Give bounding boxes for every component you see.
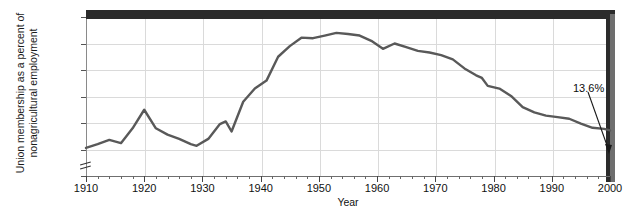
x-axis-tick-minor: [109, 176, 110, 179]
x-axis-tick-minor: [237, 176, 238, 179]
y-axis-tick-mark: [81, 123, 86, 124]
x-axis-tick-minor: [575, 176, 576, 179]
x-axis-tick-minor: [540, 176, 541, 179]
x-axis-tick-minor: [284, 176, 285, 179]
x-axis-tick-label: 1960: [365, 182, 389, 194]
x-axis-tick-major: [552, 176, 553, 182]
x-axis-tick-minor: [226, 176, 227, 179]
x-axis-tick-label: 1990: [540, 182, 564, 194]
x-axis-tick-minor: [168, 176, 169, 179]
x-axis-tick-label: 1980: [481, 182, 505, 194]
x-axis-tick-minor: [505, 176, 506, 179]
y-axis-tick-mark: [81, 97, 86, 98]
x-axis-tick-minor: [98, 176, 99, 179]
x-axis-tick-label: 1920: [132, 182, 156, 194]
x-axis-tick-minor: [517, 176, 518, 179]
x-axis-tick-minor: [156, 176, 157, 179]
x-axis-tick-minor: [121, 176, 122, 179]
y-axis-tick-mark: [81, 150, 86, 151]
x-axis-tick-major: [319, 176, 320, 182]
x-axis-tick-major: [610, 176, 611, 182]
x-axis-tick-minor: [598, 176, 599, 179]
x-axis-tick-minor: [272, 176, 273, 179]
x-axis-tick-minor: [296, 176, 297, 179]
x-axis-tick-major: [202, 176, 203, 182]
y-axis-title-line1: Union membership as a percent of: [14, 12, 26, 173]
y-axis-tick-mark: [81, 17, 86, 18]
x-axis-tick-minor: [424, 176, 425, 179]
x-axis-tick-minor: [412, 176, 413, 179]
x-axis-tick-minor: [459, 176, 460, 179]
y-axis-title: Union membership as a percent of nonagri…: [0, 0, 52, 185]
x-axis-tick-minor: [307, 176, 308, 179]
x-axis-tick-minor: [389, 176, 390, 179]
x-axis-tick-label: 1940: [248, 182, 272, 194]
chart-container: Union membership as a percent of nonagri…: [0, 0, 635, 220]
x-axis-tick-label: 1930: [190, 182, 214, 194]
y-axis-tick-mark: [81, 70, 86, 71]
x-axis-tick-minor: [447, 176, 448, 179]
x-axis-tick-minor: [354, 176, 355, 179]
x-axis-tick-minor: [365, 176, 366, 179]
annotation-arrow-icon: [560, 92, 620, 162]
x-axis-tick-minor: [214, 176, 215, 179]
x-axis-tick-major: [86, 176, 87, 182]
x-axis-tick-minor: [191, 176, 192, 179]
x-axis-tick-minor: [470, 176, 471, 179]
x-axis-tick-minor: [331, 176, 332, 179]
x-axis-tick-minor: [133, 176, 134, 179]
x-axis-tick-minor: [563, 176, 564, 179]
x-axis-tick-minor: [482, 176, 483, 179]
x-axis-tick-minor: [179, 176, 180, 179]
x-axis-tick-major: [377, 176, 378, 182]
data-series-line: [86, 17, 610, 176]
x-axis-tick-major: [261, 176, 262, 182]
x-axis-tick-label: 2000: [598, 182, 622, 194]
x-axis-tick-label: 1970: [423, 182, 447, 194]
x-axis-title: Year: [337, 196, 358, 208]
x-axis-tick-minor: [400, 176, 401, 179]
x-axis-tick-minor: [528, 176, 529, 179]
x-axis-tick-major: [144, 176, 145, 182]
x-axis-tick-minor: [342, 176, 343, 179]
x-axis-tick-major: [435, 176, 436, 182]
x-axis-tick-minor: [249, 176, 250, 179]
x-axis-tick-major: [494, 176, 495, 182]
x-axis-tick-minor: [587, 176, 588, 179]
y-axis-tick-mark: [81, 44, 86, 45]
x-axis-line: [86, 176, 610, 177]
x-axis-tick-label: 1910: [74, 182, 98, 194]
x-axis-tick-label: 1950: [307, 182, 331, 194]
y-axis-title-line2: nonagricultural employment: [26, 12, 39, 173]
